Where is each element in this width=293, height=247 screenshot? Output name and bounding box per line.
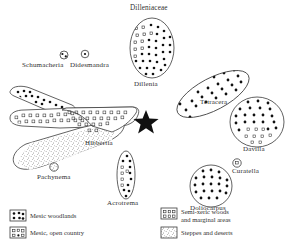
legend-label-semi-xeric-woods: Semi-xeric woods (181, 208, 229, 216)
legend-swatch-mesic-woodlands (10, 210, 26, 221)
taxon-shape-curatella (233, 159, 241, 167)
dilleniaceae-distribution-diagram (0, 0, 293, 247)
legend-label-semi-xeric-woods-2: and marginal areas (181, 216, 231, 224)
label-schumacheria: Schumacheria (22, 62, 63, 69)
legend-swatch-mesic-open-country (10, 227, 26, 238)
label-dillenia: Dillenia (134, 81, 158, 88)
taxon-shape-didesmandra (81, 50, 89, 58)
label-hibbertia: Hibbertia (85, 140, 113, 147)
label-davilla: Davilla (243, 146, 265, 153)
taxon-shape-doliocarpus (190, 165, 232, 207)
legend-swatch-semi-xeric-woods (161, 208, 177, 219)
taxon-shape-schumacheria (60, 51, 68, 59)
taxon-shape-pachynema (50, 163, 58, 171)
label-acrotrema: Acrotrema (107, 200, 138, 207)
label-pachynema: Pachynema (37, 174, 71, 181)
legend-swatch-steppes-and-deserts (161, 227, 177, 238)
legend-label-mesic-open-country: Mesic, open country (30, 229, 84, 237)
taxon-shape-davilla (230, 97, 284, 147)
taxon-shape-acrotrema (117, 151, 135, 199)
taxon-shape-dillenia (130, 18, 174, 78)
label-tetracera: Tetracera (200, 99, 227, 106)
label-curatella: Curatella (232, 168, 259, 175)
legend-label-steppes-and-deserts: Steppes and deserts (181, 229, 233, 237)
label-didesmandra: Didesmandra (70, 62, 109, 69)
figure-title: Dilleniaceae (130, 5, 168, 12)
legend-label-mesic-woodlands: Mesic woodlands (30, 212, 76, 220)
